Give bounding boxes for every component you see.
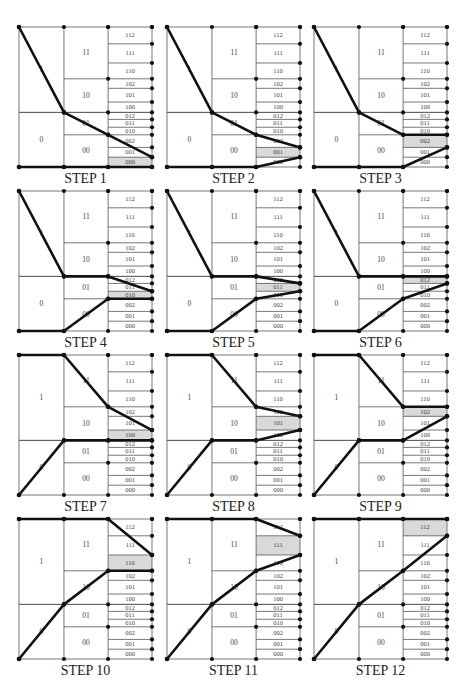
grid-node-dot	[150, 657, 154, 661]
cell-label: 1	[188, 393, 192, 402]
cell-label: 00	[377, 638, 385, 647]
path-node-dot	[401, 405, 406, 410]
path-node-dot	[401, 438, 406, 443]
cell-label: 012	[273, 112, 283, 119]
cell-label: 1	[188, 557, 192, 566]
cell-label: 111	[273, 213, 282, 220]
grid-node-dot	[298, 42, 302, 46]
path-node-dot	[106, 165, 111, 170]
cell-label: 111	[125, 49, 134, 56]
grid-node-dot	[298, 578, 302, 582]
path-node-dot	[298, 145, 303, 150]
path-node-dot	[254, 405, 259, 410]
cell-label: 100	[125, 595, 135, 602]
cell-label: 0	[335, 135, 339, 144]
grid-node-dot	[150, 206, 154, 210]
cell-label: 101	[420, 91, 430, 98]
grid-node-dot	[445, 61, 449, 65]
cell-label: 00	[230, 638, 238, 647]
grid-node-dot	[150, 578, 154, 582]
cell-label: 000	[125, 322, 135, 329]
path-node-dot	[401, 297, 406, 302]
grid-node-dot	[150, 483, 154, 487]
cell-label: 011	[420, 119, 430, 126]
grid-node-dot	[298, 165, 302, 169]
cell-label: 11	[82, 48, 89, 57]
path-node-dot	[254, 517, 259, 522]
grid-node-dot	[298, 483, 302, 487]
cell-label: 100	[420, 431, 430, 438]
grid-node-dot	[106, 461, 110, 465]
path-node-dot	[445, 517, 450, 522]
grid-node-dot	[445, 553, 449, 557]
grid-node-dot	[445, 578, 449, 582]
grid-node-dot	[150, 319, 154, 323]
grid-node-dot	[150, 625, 154, 629]
cell-label: 100	[420, 595, 430, 602]
grid-node-dot	[445, 117, 449, 121]
grid-node-dot	[254, 189, 258, 193]
grid-node-dot	[445, 319, 449, 323]
grid-node-dot	[150, 189, 154, 193]
cell-label: 00	[82, 474, 90, 483]
grid-node-dot	[106, 657, 110, 661]
cell-label: 10	[230, 255, 238, 264]
grid-node-dot	[298, 297, 302, 301]
grid-node-dot	[150, 241, 154, 245]
step-label: STEP 4	[64, 335, 107, 350]
grid-node-dot	[298, 637, 302, 641]
cell-label: 002	[125, 301, 135, 308]
grid-node-dot	[210, 657, 214, 661]
grid-node-dot	[150, 353, 154, 357]
cell-label: 10	[82, 91, 90, 100]
grid-node-dot	[298, 206, 302, 210]
step-label: STEP 5	[212, 335, 255, 350]
path-node-dot	[150, 165, 155, 170]
grid-node-dot	[445, 493, 449, 497]
step-label: STEP 2	[212, 171, 255, 186]
grid-node-dot	[150, 389, 154, 393]
grid-node-dot	[401, 77, 405, 81]
cell-label: 010	[420, 127, 430, 134]
cell-label: 112	[273, 359, 283, 366]
cell-label: 102	[273, 572, 283, 579]
grid-node-dot	[298, 473, 302, 477]
cell-label: 111	[273, 377, 282, 384]
grid-node-dot	[445, 189, 449, 193]
grid-node-dot	[401, 657, 405, 661]
cell-label: 01	[230, 611, 238, 620]
path-node-dot	[298, 155, 303, 160]
grid-node-dot	[298, 241, 302, 245]
cell-label: 002	[125, 629, 135, 636]
grid-node-dot	[150, 100, 154, 104]
path-node-dot	[445, 274, 450, 279]
step-panel: 1011100100112111110102101100012011010002…	[312, 25, 450, 186]
cell-label: 1	[335, 557, 339, 566]
grid-node-dot	[401, 602, 405, 606]
path-node-dot	[254, 297, 259, 302]
path-node-dot	[210, 517, 215, 522]
grid-node-dot	[150, 110, 154, 114]
cell-label: 111	[420, 213, 429, 220]
grid-node-dot	[445, 370, 449, 374]
cell-label: 100	[273, 103, 283, 110]
cell-label: 10	[377, 255, 385, 264]
grid-node-dot	[401, 625, 405, 629]
grid-node-dot	[445, 250, 449, 254]
path-node-dot	[106, 297, 111, 302]
cell-label: 001	[273, 148, 283, 155]
grid-node-dot	[254, 657, 258, 661]
cell-label: 01	[230, 447, 238, 456]
grid-node-dot	[150, 461, 154, 465]
grid-node-dot	[298, 370, 302, 374]
cell-label: 011	[420, 611, 430, 618]
grid-node-dot	[254, 77, 258, 81]
step-label: STEP 8	[212, 499, 255, 514]
grid-node-dot	[298, 517, 302, 521]
cell-label: 002	[273, 301, 283, 308]
cell-label: 01	[82, 611, 90, 620]
grid-node-dot	[150, 274, 154, 278]
grid-node-dot	[298, 100, 302, 104]
step-panel: 1011100100112111110102101100012011010002…	[312, 517, 450, 678]
cell-label: 001	[273, 476, 283, 483]
